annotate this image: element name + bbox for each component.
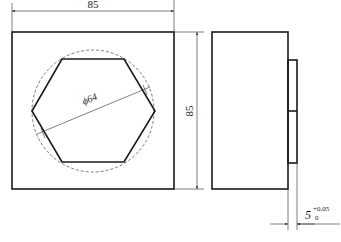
- front-view: ϕ64: [12, 32, 174, 189]
- height-label: 85: [183, 105, 195, 117]
- technical-drawing: ϕ64 85 85 5 +0.05 0: [0, 0, 341, 242]
- height-dimension: 85: [174, 32, 204, 189]
- side-plate-outline: [212, 32, 288, 189]
- thickness-dimension: 5 +0.05 0: [270, 163, 340, 230]
- width-dimension: 85: [12, 0, 174, 32]
- diameter-label: ϕ64: [80, 91, 98, 107]
- width-label: 85: [88, 0, 100, 10]
- tolerance-lower: 0: [315, 214, 319, 222]
- thickness-label: 5: [305, 208, 311, 222]
- tolerance-upper: +0.05: [313, 205, 330, 213]
- side-view: [212, 32, 297, 189]
